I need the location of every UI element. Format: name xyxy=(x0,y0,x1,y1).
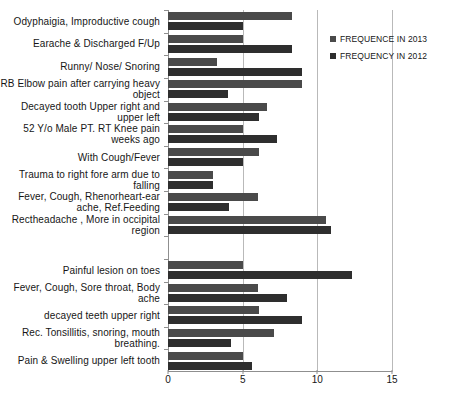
category-tick-mark xyxy=(164,78,168,79)
bar xyxy=(168,203,229,211)
bar xyxy=(168,35,243,43)
category-label-row: Runny/ Nose/ Snoring xyxy=(0,55,166,78)
category-label-row: Rec. Tonsillitis, snoring, mouth breathi… xyxy=(0,327,166,350)
category-tick-mark xyxy=(164,282,168,283)
category-tick-mark xyxy=(164,327,168,328)
bar xyxy=(168,171,213,179)
x-axis-tick-label: 5 xyxy=(240,374,246,385)
bar xyxy=(168,339,231,347)
category-label-row: Earache & Discharged F/Up xyxy=(0,33,166,56)
category-label: Earache & Discharged F/Up xyxy=(33,38,160,49)
category-tick-mark xyxy=(164,304,168,305)
category-label-row: decayed teeth upper right xyxy=(0,304,166,327)
category-label: 52 Y/o Male PT. RT Knee pain weeks ago xyxy=(0,123,160,145)
category-label-row: Rectheadache , More in occipital region xyxy=(0,214,166,237)
category-label: Odyphaigia, Improductive cough xyxy=(14,16,160,27)
category-label-row: Fever, Cough, Rhenorheart-ear ache, Ref.… xyxy=(0,191,166,214)
bar xyxy=(168,113,259,121)
legend-item-label: FREQUENCY IN 2012 xyxy=(340,51,427,61)
category-label-row: Odyphaigia, Improductive cough xyxy=(0,10,166,33)
category-label: Decayed tooth Upper right and upper left xyxy=(0,101,160,123)
bar xyxy=(168,90,228,98)
category-label-row: RB Elbow pain after carrying heavy objec… xyxy=(0,78,166,101)
category-tick-mark xyxy=(164,146,168,147)
category-tick-mark xyxy=(164,123,168,124)
bar xyxy=(168,362,252,370)
category-tick-mark xyxy=(164,168,168,169)
x-axis-tick-labels: 051015 xyxy=(168,374,392,390)
category-label: With Cough/Fever xyxy=(78,152,160,163)
bar xyxy=(168,329,274,337)
bar xyxy=(168,294,287,302)
bar xyxy=(168,271,352,279)
bar-group xyxy=(168,191,392,214)
x-axis-tick-label: 0 xyxy=(165,374,171,385)
category-label-row: Trauma to right fore arm due to falling xyxy=(0,168,166,191)
chart-legend: FREQUENCE IN 2013 FREQUENCY IN 2012 xyxy=(330,34,450,68)
category-label-row xyxy=(0,236,166,259)
category-tick-mark xyxy=(164,55,168,56)
bar xyxy=(168,181,213,189)
category-tick-mark xyxy=(164,191,168,192)
category-label: Fever, Cough, Sore throat, Body ache xyxy=(0,282,160,304)
bar xyxy=(168,306,259,314)
legend-swatch-icon xyxy=(330,53,336,59)
x-axis-tick-label: 15 xyxy=(386,374,397,385)
category-label-row: Fever, Cough, Sore throat, Body ache xyxy=(0,282,166,305)
bar xyxy=(168,158,243,166)
legend-item: FREQUENCE IN 2013 xyxy=(330,34,450,44)
category-tick-mark xyxy=(164,236,168,237)
category-label: decayed teeth upper right xyxy=(44,310,160,321)
bar-chart: Odyphaigia, Improductive coughEarache & … xyxy=(0,0,453,409)
bar xyxy=(168,261,243,269)
bar xyxy=(168,58,217,66)
category-tick-mark xyxy=(164,10,168,11)
category-label: Fever, Cough, Rhenorheart-ear ache, Ref.… xyxy=(0,191,160,213)
category-label: Runny/ Nose/ Snoring xyxy=(60,61,160,72)
category-tick-mark xyxy=(164,33,168,34)
category-label: RB Elbow pain after carrying heavy objec… xyxy=(0,78,160,100)
bar-group xyxy=(168,168,392,191)
bar xyxy=(168,352,243,360)
bar xyxy=(168,80,302,88)
bar xyxy=(168,193,258,201)
category-label-row: Painful lesion on toes xyxy=(0,259,166,282)
category-label-row: Pain & Swelling upper left tooth xyxy=(0,349,166,372)
bar xyxy=(168,148,259,156)
bar-group xyxy=(168,214,392,237)
bar xyxy=(168,68,302,76)
category-label-row: Decayed tooth Upper right and upper left xyxy=(0,101,166,124)
bar-group xyxy=(168,101,392,124)
legend-item: FREQUENCY IN 2012 xyxy=(330,51,450,61)
category-tick-mark xyxy=(164,101,168,102)
bar-group xyxy=(168,123,392,146)
bar-group xyxy=(168,304,392,327)
bar xyxy=(168,12,292,20)
bar-group xyxy=(168,349,392,372)
category-label: Painful lesion on toes xyxy=(63,265,160,276)
category-label-row: 52 Y/o Male PT. RT Knee pain weeks ago xyxy=(0,123,166,146)
legend-item-label: FREQUENCE IN 2013 xyxy=(340,34,427,44)
bar-group xyxy=(168,236,392,259)
bar xyxy=(168,226,331,234)
x-axis-tick-label: 10 xyxy=(312,374,323,385)
bar-group xyxy=(168,327,392,350)
category-label-row: With Cough/Fever xyxy=(0,146,166,169)
bar-group xyxy=(168,146,392,169)
category-tick-mark xyxy=(164,214,168,215)
bar xyxy=(168,125,243,133)
bar-group xyxy=(168,10,392,33)
category-labels: Odyphaigia, Improductive coughEarache & … xyxy=(0,10,166,372)
bar xyxy=(168,103,267,111)
bar xyxy=(168,316,302,324)
bar xyxy=(168,216,326,224)
bar xyxy=(168,135,277,143)
bar-group xyxy=(168,282,392,305)
category-label: Trauma to right fore arm due to falling xyxy=(0,169,160,191)
category-label: Rec. Tonsillitis, snoring, mouth breathi… xyxy=(0,327,160,349)
category-tick-mark xyxy=(164,349,168,350)
category-label: Rectheadache , More in occipital region xyxy=(0,214,160,236)
category-tick-mark xyxy=(164,259,168,260)
bar xyxy=(168,45,292,53)
category-label: Pain & Swelling upper left tooth xyxy=(18,355,160,366)
